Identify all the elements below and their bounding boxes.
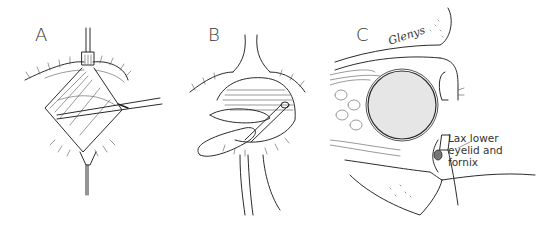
callout-line-1: Lax lower xyxy=(448,132,503,144)
panel-a: A xyxy=(0,0,185,230)
panel-a-illustration xyxy=(0,0,185,230)
panel-b-illustration xyxy=(185,0,335,230)
panel-b: B xyxy=(185,0,335,230)
panel-c-illustration xyxy=(330,0,554,230)
lax-lower-eyelid-callout: Lax lower eyelid and fornix xyxy=(448,132,503,168)
panel-c: C Glenys Lax lower eyelid and fornix xyxy=(330,0,554,230)
callout-line-2: eyelid and xyxy=(448,144,503,156)
callout-line-3: fornix xyxy=(448,156,503,168)
